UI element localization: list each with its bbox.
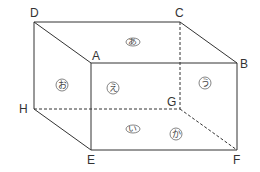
face-marker-back: か xyxy=(170,128,182,140)
face-markers: あ い う え お か xyxy=(56,38,211,140)
vertex-label-E: E xyxy=(87,153,95,167)
vertex-labels: D A C B H G E F xyxy=(19,6,248,167)
face-label-left: お xyxy=(58,80,67,90)
vertex-label-F: F xyxy=(233,153,240,167)
vertex-label-H: H xyxy=(19,102,28,116)
vertex-label-D: D xyxy=(30,6,39,20)
face-label-bottom: い xyxy=(128,125,137,132)
face-marker-left: お xyxy=(56,79,68,91)
face-label-right: う xyxy=(201,78,210,88)
edge-CB xyxy=(180,22,237,63)
rectangular-prism-diagram: D A C B H G E F あ い う え お か xyxy=(0,0,260,172)
vertex-label-A: A xyxy=(92,49,100,63)
face-marker-right: う xyxy=(199,77,211,89)
face-label-back: か xyxy=(172,129,181,139)
edge-HE xyxy=(34,109,91,150)
vertex-label-C: C xyxy=(175,6,184,20)
face-label-top: あ xyxy=(128,38,137,45)
edge-DA xyxy=(34,22,91,63)
face-label-front: え xyxy=(109,83,118,93)
face-marker-top: あ xyxy=(126,38,140,46)
vertex-label-B: B xyxy=(240,57,248,71)
vertex-label-G: G xyxy=(167,95,176,109)
face-marker-front: え xyxy=(107,82,119,94)
face-marker-bottom: い xyxy=(126,125,140,133)
edge-GF xyxy=(180,109,237,150)
